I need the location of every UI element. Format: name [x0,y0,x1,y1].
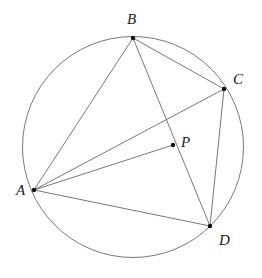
point-b [131,36,135,40]
point-c [222,87,226,91]
point-d [208,224,212,228]
segment-layer [34,38,224,226]
label-c: C [233,72,243,87]
segment-ap [34,145,173,190]
label-a: A [16,183,25,198]
label-b: B [127,12,136,27]
label-p: P [181,135,190,150]
segment-bc [133,38,224,89]
segment-ab [34,38,133,190]
geometry-diagram: ABCDP [0,0,262,278]
point-p [171,143,175,147]
segment-cd [210,89,224,226]
label-d: D [219,233,230,248]
point-layer [32,36,226,228]
segment-bd [133,38,210,226]
segment-ac [34,89,224,190]
point-a [32,188,36,192]
segment-da [34,190,210,226]
